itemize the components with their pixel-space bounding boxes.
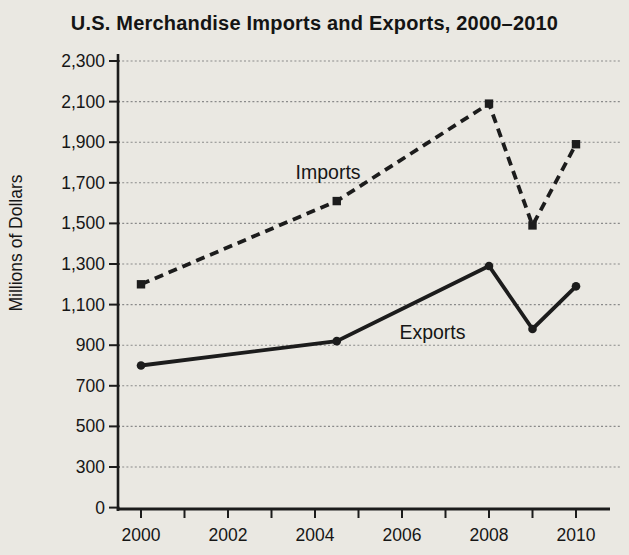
y-axis-title: Millions of Dollars xyxy=(6,174,26,311)
y-tick-label: 900 xyxy=(76,335,105,355)
chart-page: U.S. Merchandise Imports and Exports, 20… xyxy=(0,0,629,555)
y-tick-label: 1,500 xyxy=(61,213,105,233)
x-tick-label: 2000 xyxy=(122,525,161,545)
y-tick-label: 2,300 xyxy=(61,51,105,71)
imports-marker xyxy=(137,280,145,288)
imports-marker xyxy=(333,197,341,205)
y-tick-label: 0 xyxy=(95,498,105,518)
exports-line xyxy=(141,266,576,365)
imports-series-label: Imports xyxy=(296,161,361,183)
imports-line xyxy=(141,104,576,285)
y-tick-label: 1,300 xyxy=(61,254,105,274)
y-tick-label: 1,100 xyxy=(61,295,105,315)
x-tick-label: 2008 xyxy=(470,525,509,545)
exports-marker xyxy=(485,262,494,271)
y-tick-label: 1,700 xyxy=(61,173,105,193)
exports-series-label: Exports xyxy=(399,321,465,343)
exports-marker xyxy=(332,337,341,346)
x-tick-label: 2006 xyxy=(383,525,422,545)
x-tick-label: 2010 xyxy=(557,525,596,545)
exports-marker xyxy=(572,282,581,291)
chart-canvas: 2,3002,1001,9001,7001,5001,3001,10090070… xyxy=(0,0,629,555)
exports-marker xyxy=(137,361,146,370)
y-tick-label: 700 xyxy=(76,376,105,396)
exports-marker xyxy=(528,325,537,334)
y-tick-label: 500 xyxy=(76,416,105,436)
imports-marker xyxy=(528,221,536,229)
y-tick-label: 1,900 xyxy=(61,132,105,152)
imports-marker xyxy=(572,140,580,148)
x-tick-label: 2002 xyxy=(209,525,248,545)
imports-marker xyxy=(485,99,493,107)
x-tick-label: 2004 xyxy=(296,525,335,545)
y-tick-label: 300 xyxy=(76,457,105,477)
y-tick-label: 2,100 xyxy=(61,92,105,112)
